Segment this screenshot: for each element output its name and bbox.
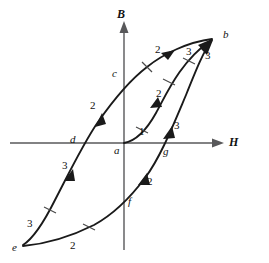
segment-label-4: 3 bbox=[186, 46, 192, 57]
point-label-g: g bbox=[163, 146, 169, 157]
segment-label-6: 2 bbox=[90, 100, 96, 111]
segment-label-7: 3 bbox=[62, 160, 68, 171]
point-label-a: a bbox=[114, 145, 120, 156]
descending-branch-path bbox=[23, 39, 212, 245]
segment-label-2: 2 bbox=[156, 88, 162, 99]
b-axis-label: B bbox=[117, 8, 125, 20]
b-axis-arrowhead bbox=[120, 21, 129, 33]
segment-label-8: 3 bbox=[27, 218, 33, 229]
point-label-d: d bbox=[70, 134, 76, 145]
h-axis-arrowhead bbox=[212, 139, 224, 148]
descending-branch-b-to-e bbox=[23, 39, 212, 245]
segment-label-5: 2 bbox=[155, 44, 161, 55]
point-label-e: e bbox=[12, 242, 17, 253]
segment-label-3: 3 bbox=[205, 50, 211, 61]
segment-label-1: 1 bbox=[139, 126, 145, 137]
descending-branch-arrowhead-1 bbox=[161, 50, 175, 60]
point-label-f: f bbox=[128, 196, 131, 207]
point-label-c: c bbox=[112, 68, 117, 79]
point-label-b: b bbox=[223, 29, 229, 40]
h-axis-label: H bbox=[229, 136, 238, 148]
segment-label-9: 2 bbox=[70, 240, 76, 251]
segment-label-10: 2 bbox=[147, 176, 153, 187]
segment-label-11: 3 bbox=[174, 120, 180, 131]
hysteresis-loop-figure: H B a b c d e f g 1 2 3 3 2 2 3 3 2 2 3 bbox=[0, 0, 269, 263]
descending-branch-arrowhead-2 bbox=[95, 113, 106, 127]
